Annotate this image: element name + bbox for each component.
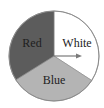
section-label-red: Red [22, 36, 41, 50]
section-label-blue: Blue [43, 73, 66, 87]
spinner-diagram: White Blue Red [0, 0, 104, 108]
section-label-white: White [62, 36, 91, 50]
